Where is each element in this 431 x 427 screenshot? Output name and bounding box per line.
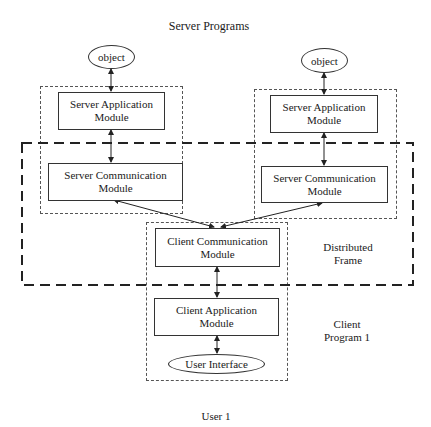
client-program-line1: Client xyxy=(317,318,377,331)
server-1-communication-module: Server CommunicationModule xyxy=(48,163,183,201)
frame-label-line2: Frame xyxy=(318,254,378,267)
client-app-line2: Module xyxy=(176,317,257,330)
server-2-object-node: object xyxy=(301,48,348,73)
server-1-comm-line1: Server Communication xyxy=(64,169,166,182)
server-2-comm-line1: Server Communication xyxy=(273,172,375,185)
server-1-app-line1: Server Application xyxy=(70,98,153,111)
server-2-app-line1: Server Application xyxy=(283,101,366,114)
user-label: User 1 xyxy=(186,410,246,423)
client-app-line1: Client Application xyxy=(176,304,257,317)
client-comm-line2: Module xyxy=(167,248,268,261)
client-program-line2: Program 1 xyxy=(317,331,377,344)
server-2-communication-module: Server CommunicationModule xyxy=(261,166,388,203)
server-2-app-line2: Module xyxy=(283,114,366,127)
server-programs-title: Server Programs xyxy=(159,20,259,33)
server-2-comm-line2: Module xyxy=(273,185,375,198)
client-application-module: Client ApplicationModule xyxy=(154,298,279,336)
distributed-frame-label: Distributed Frame xyxy=(318,241,378,267)
client-program-label: Client Program 1 xyxy=(317,318,377,344)
client-comm-line1: Client Communication xyxy=(167,235,268,248)
server-1-object-node: object xyxy=(88,45,135,69)
server-1-object-label: object xyxy=(98,51,125,63)
frame-label-line1: Distributed xyxy=(318,241,378,254)
server-2-object-label: object xyxy=(311,55,338,67)
user-interface-node: User Interface xyxy=(168,354,265,374)
server-2-application-module: Server ApplicationModule xyxy=(270,95,378,133)
server-1-application-module: Server ApplicationModule xyxy=(58,92,165,130)
user-interface-label: User Interface xyxy=(185,358,248,370)
server-1-app-line2: Module xyxy=(70,111,153,124)
client-communication-module: Client CommunicationModule xyxy=(155,228,280,267)
server-1-comm-line2: Module xyxy=(64,182,166,195)
